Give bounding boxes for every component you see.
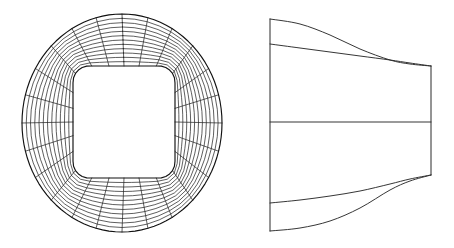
mesh-spoke-18: [22, 122, 73, 123]
mesh-spoke-22: [72, 29, 92, 66]
panel-meridional-profile: Meridional profile view: [230, 0, 454, 248]
mesh-ring-2: [65, 57, 183, 187]
profile-curve-shroud-upper: [270, 19, 431, 66]
mesh-spoke-3: [173, 46, 193, 74]
panel-cross-section: Cross-sectional O-grid mesh: [0, 0, 230, 248]
meridional-profile-svg: [230, 0, 454, 248]
mesh-spoke-6: [175, 122, 222, 123]
profile-curve-group: [270, 19, 431, 231]
mesh-ring-1: [69, 62, 179, 183]
profile-curve-shroud-lower: [270, 175, 431, 231]
profile-curve-hub-lower: [270, 175, 431, 203]
inner-rounded-square-boundary: [73, 66, 175, 178]
profile-curve-hub-upper: [270, 44, 431, 66]
cross-section-mesh-svg: [0, 0, 230, 248]
mesh-ring-3: [60, 53, 187, 192]
mesh-spoke-15: [51, 171, 75, 201]
mesh-spoke-14: [72, 178, 92, 217]
mesh-ring-9: [35, 27, 211, 219]
figure-root: Cross-sectional O-grid mesh Meridional p…: [0, 0, 454, 248]
